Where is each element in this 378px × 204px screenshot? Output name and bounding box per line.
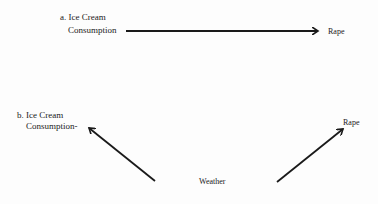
panel-a-label-line1: a. Ice Cream [60,12,106,22]
panel-b-target-label: Rape [343,118,359,128]
causal-diagram: a. Ice Cream Consumption Rape b. Ice Cre… [0,0,378,204]
panel-b-source-label: Weather [199,177,225,187]
panel-a-target-label: Rape [328,27,344,37]
panel-a-label-line2: Consumption [68,25,117,35]
arrow-weather-to-icecream [89,128,155,181]
panel-b-label-line2: Consumption- [26,121,78,131]
panel-b-label-line1: b. Ice Cream [17,110,63,120]
arrow-weather-to-rape [277,129,343,182]
arrows-layer [0,0,378,204]
